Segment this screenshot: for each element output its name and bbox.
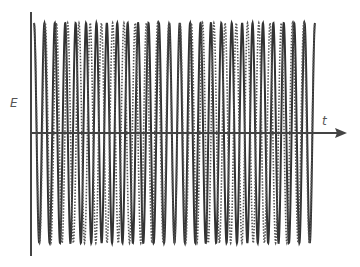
x-axis-label: t — [322, 114, 327, 128]
beat-wave-plot — [0, 0, 360, 267]
chart: E t — [0, 0, 360, 267]
y-axis-label: E — [10, 96, 18, 110]
